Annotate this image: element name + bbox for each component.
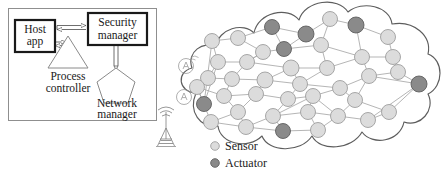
mesh-node-actuator[interactable]	[197, 97, 212, 112]
gateway-panel: Process controller Network manager Host …	[9, 9, 177, 147]
mesh-node-sensor[interactable]	[320, 61, 335, 76]
mesh-node-sensor[interactable]	[382, 105, 397, 120]
legend-actuator-swatch	[211, 159, 220, 168]
legend-actuator-label: Actuator	[225, 156, 267, 170]
mesh-node-sensor[interactable]	[240, 55, 255, 70]
mesh-node-sensor[interactable]	[205, 34, 220, 49]
mesh-node-sensor[interactable]	[311, 123, 326, 138]
mesh-node-sensor[interactable]	[281, 92, 296, 107]
figure-canvas: Process controller Network manager Host …	[0, 0, 444, 175]
mesh-node-actuator[interactable]	[276, 124, 291, 139]
mesh-node-actuator[interactable]	[298, 26, 314, 42]
radio-tower-icon	[156, 107, 176, 147]
mesh-node-sensor[interactable]	[257, 72, 273, 88]
wireless-mesh-cloud	[177, 2, 441, 149]
mesh-node-sensor[interactable]	[239, 120, 254, 135]
mesh-node-actuator[interactable]	[411, 76, 427, 92]
mesh-node-sensor[interactable]	[314, 38, 329, 53]
mesh-node-sensor[interactable]	[217, 89, 232, 104]
legend: Sensor Actuator	[211, 139, 267, 170]
mesh-node-sensor[interactable]	[190, 80, 205, 95]
security-manager-label-line2: manager	[98, 29, 138, 42]
mesh-node-sensor[interactable]	[231, 105, 246, 120]
mesh-node-sensor[interactable]	[283, 60, 299, 76]
mesh-node-sensor[interactable]	[333, 81, 348, 96]
mesh-node-sensor[interactable]	[362, 69, 377, 84]
mesh-node-sensor[interactable]	[204, 115, 219, 130]
host-app-block[interactable]: Host app	[15, 20, 55, 52]
mesh-node-sensor[interactable]	[348, 93, 363, 108]
legend-sensor-swatch	[211, 142, 220, 151]
legend-sensor-label: Sensor	[225, 139, 258, 153]
security-manager-label-line1: Security	[98, 16, 137, 29]
mesh-node-sensor[interactable]	[266, 109, 281, 124]
mesh-node-sensor[interactable]	[361, 113, 376, 128]
process-controller-label-line1: Process	[50, 70, 86, 82]
figure-svg: Process controller Network manager Host …	[0, 0, 444, 175]
network-manager-label-line2: manager	[97, 108, 137, 121]
mesh-node-sensor[interactable]	[306, 89, 321, 104]
mesh-node-actuator[interactable]	[265, 20, 280, 35]
mesh-node-sensor[interactable]	[301, 105, 316, 120]
mesh-node-actuator[interactable]	[277, 42, 292, 57]
mesh-node-sensor[interactable]	[249, 87, 264, 102]
mesh-node-actuator[interactable]	[348, 17, 364, 33]
mesh-node-sensor[interactable]	[355, 50, 370, 65]
mesh-node-sensor[interactable]	[391, 65, 406, 80]
process-controller-label-line2: controller	[46, 82, 91, 94]
legend-item-actuator: Actuator	[211, 156, 267, 170]
mesh-node-sensor[interactable]	[231, 31, 246, 46]
security-manager-block[interactable]: Security manager	[88, 13, 147, 45]
mesh-node-sensor[interactable]	[293, 77, 308, 92]
mesh-node-sensor[interactable]	[256, 45, 271, 60]
mesh-node-sensor[interactable]	[331, 109, 346, 124]
host-app-label-line2: app	[27, 35, 44, 48]
mesh-node-sensor[interactable]	[386, 50, 401, 65]
mesh-node-sensor[interactable]	[225, 72, 240, 87]
mesh-node-sensor[interactable]	[211, 55, 226, 70]
mesh-node-sensor[interactable]	[323, 12, 338, 27]
mesh-node-sensor[interactable]	[381, 30, 396, 45]
host-app-label-line1: Host	[24, 23, 47, 35]
legend-item-sensor: Sensor	[211, 139, 258, 153]
